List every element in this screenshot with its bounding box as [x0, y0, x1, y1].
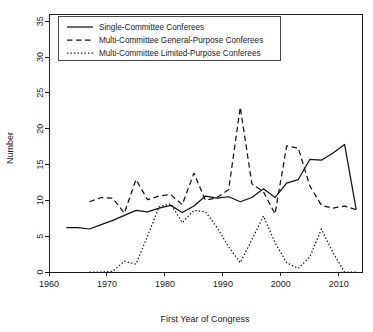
- x-tick-label: 2000: [271, 279, 291, 289]
- series-line-1: [66, 144, 356, 229]
- x-tick-label: 2010: [329, 279, 349, 289]
- chart-container: 05101520253035 196019701980199020002010 …: [0, 0, 373, 332]
- x-axis-title: First Year of Congress: [160, 314, 250, 324]
- legend-label-3: Multi-Committee Limited-Purpose Conferee…: [99, 49, 261, 58]
- y-tick-label: 5: [35, 234, 45, 239]
- x-tick-label: 1960: [39, 279, 59, 289]
- x-tick-label: 1980: [155, 279, 175, 289]
- legend-label-2: Multi-Committee General-Purpose Conferee…: [99, 36, 263, 45]
- x-axis: 196019701980199020002010: [39, 272, 349, 289]
- y-tick-label: 0: [35, 269, 45, 274]
- data-series-group: [66, 107, 356, 272]
- y-axis: 05101520253035: [35, 16, 49, 274]
- y-tick-label: 25: [35, 88, 45, 98]
- x-tick-label: 1990: [213, 279, 233, 289]
- legend-label-1: Single-Committee Conferees: [99, 23, 204, 32]
- y-tick-label: 20: [35, 124, 45, 134]
- x-tick-label: 1970: [97, 279, 117, 289]
- y-tick-label: 30: [35, 52, 45, 62]
- line-chart: 05101520253035 196019701980199020002010 …: [0, 0, 373, 332]
- y-tick-label: 35: [35, 16, 45, 26]
- y-axis-title: Number: [5, 132, 15, 164]
- y-tick-label: 10: [35, 195, 45, 205]
- chart-legend: Single-Committee ConfereesMulti-Committe…: [58, 16, 280, 60]
- series-line-3: [90, 204, 357, 272]
- y-tick-label: 15: [35, 159, 45, 169]
